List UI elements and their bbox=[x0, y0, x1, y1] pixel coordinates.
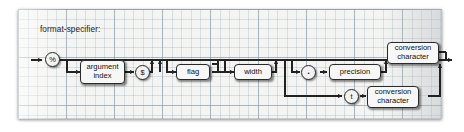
connector-wires bbox=[0, 0, 464, 132]
terminal-dot-label: . bbox=[307, 68, 311, 72]
flag-label: flag bbox=[187, 68, 199, 77]
terminal-dollar: $ bbox=[135, 65, 150, 80]
nonterminal-argument-index: argument index bbox=[80, 60, 125, 84]
conversion-character-top-label-line2: character bbox=[397, 53, 429, 62]
terminal-t-label: t bbox=[350, 92, 352, 101]
terminal-percent: % bbox=[45, 52, 60, 67]
width-label: width bbox=[244, 68, 262, 77]
terminal-percent-label: % bbox=[49, 55, 56, 64]
terminal-dot: . bbox=[301, 65, 316, 80]
nonterminal-conversion-character-top: conversion character bbox=[387, 42, 439, 64]
nonterminal-flag: flag bbox=[176, 64, 210, 80]
precision-label: precision bbox=[340, 68, 370, 77]
nonterminal-precision: precision bbox=[329, 64, 381, 80]
conversion-character-bottom-label-line2: character bbox=[377, 97, 409, 106]
nonterminal-conversion-character-bottom: conversion character bbox=[367, 86, 419, 108]
terminal-dollar-label: $ bbox=[140, 68, 144, 77]
railroad-diagram-figure: format-specifier: bbox=[0, 0, 464, 132]
argument-index-label-line2: index bbox=[93, 72, 111, 81]
nonterminal-width: width bbox=[234, 64, 272, 80]
terminal-t: t bbox=[344, 89, 359, 104]
